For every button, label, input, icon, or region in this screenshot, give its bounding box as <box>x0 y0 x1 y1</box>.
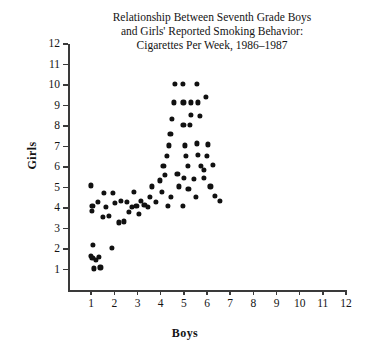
x-tick-label-7: 7 <box>218 298 242 310</box>
x-tick-label-1: 1 <box>79 298 103 310</box>
data-point <box>196 152 201 157</box>
y-tick-label-2: 2 <box>40 243 60 255</box>
x-tick-2 <box>114 290 115 295</box>
y-tick-label-text: 5 <box>42 182 60 194</box>
x-tick-label-8: 8 <box>241 298 265 310</box>
data-point <box>126 210 131 215</box>
data-point <box>188 112 193 117</box>
data-point <box>181 122 186 127</box>
x-tick-9 <box>276 290 277 295</box>
y-tick-3 <box>63 228 68 229</box>
data-point <box>89 183 94 188</box>
data-point <box>194 81 199 86</box>
y-tick-9 <box>63 105 68 106</box>
y-tick-label-text: 12 <box>42 38 60 50</box>
y-tick-1 <box>63 269 68 270</box>
data-point <box>172 100 177 105</box>
x-tick-11 <box>322 290 323 295</box>
data-point <box>180 203 185 208</box>
data-point <box>170 116 175 121</box>
y-tick-label-9: 9 <box>40 100 60 112</box>
chart-title-line-2: and Girls' Reported Smoking Behavior: <box>84 24 340 38</box>
data-point <box>203 95 208 100</box>
y-tick-label-text: 8 <box>42 120 60 132</box>
y-tick-label-7: 7 <box>40 141 60 153</box>
data-point <box>183 153 188 158</box>
data-point <box>111 190 116 195</box>
y-tick-10 <box>63 84 68 85</box>
x-tick-5 <box>183 290 184 295</box>
data-point <box>197 113 202 118</box>
data-point <box>157 178 162 183</box>
x-tick-label-12: 12 <box>334 298 358 310</box>
data-point <box>166 143 171 148</box>
scatter-plot-figure: Relationship Between Seventh Grade Boys … <box>0 0 370 361</box>
data-point <box>181 100 186 105</box>
x-tick-label-3: 3 <box>126 298 150 310</box>
data-point <box>107 214 112 219</box>
data-point <box>153 199 158 204</box>
x-tick-label-9: 9 <box>265 298 289 310</box>
data-point <box>202 176 207 181</box>
data-point <box>186 186 191 191</box>
x-tick-3 <box>137 290 138 295</box>
data-point <box>119 198 124 203</box>
data-point <box>98 265 103 270</box>
x-tick-6 <box>206 290 207 295</box>
data-point <box>145 204 150 209</box>
data-point <box>103 204 108 209</box>
data-point <box>193 194 198 199</box>
data-point <box>217 198 222 203</box>
x-tick-label-6: 6 <box>195 298 219 310</box>
data-point <box>168 132 173 137</box>
y-axis-title: Girls <box>25 126 40 186</box>
y-tick-label-text: 10 <box>42 79 60 91</box>
y-tick-label-10: 10 <box>40 79 60 91</box>
data-point <box>172 81 177 86</box>
data-point <box>180 81 185 86</box>
y-tick-label-3: 3 <box>40 223 60 235</box>
data-point <box>204 153 209 158</box>
y-tick-label-text: 2 <box>42 243 60 255</box>
y-tick-label-text: 9 <box>42 100 60 112</box>
data-point <box>90 242 95 247</box>
y-tick-label-8: 8 <box>40 120 60 132</box>
y-tick-label-text: 3 <box>42 223 60 235</box>
y-tick-6 <box>63 166 68 167</box>
data-point <box>206 142 211 147</box>
data-point <box>181 176 186 181</box>
data-point <box>163 173 168 178</box>
y-tick-11 <box>63 64 68 65</box>
x-tick-10 <box>299 290 300 295</box>
x-tick-8 <box>253 290 254 295</box>
y-tick-label-1: 1 <box>40 264 60 276</box>
x-tick-label-11: 11 <box>311 298 335 310</box>
data-point <box>90 203 95 208</box>
y-tick-label-11: 11 <box>40 59 60 71</box>
data-point <box>185 163 190 168</box>
data-point <box>208 184 213 189</box>
y-tick-8 <box>63 125 68 126</box>
y-tick-2 <box>63 248 68 249</box>
data-point <box>161 163 166 168</box>
data-point <box>165 203 170 208</box>
y-tick-7 <box>63 146 68 147</box>
data-point <box>112 200 117 205</box>
data-point <box>188 100 193 105</box>
y-tick-label-text: 7 <box>42 141 60 153</box>
data-point <box>97 254 102 259</box>
y-tick-12 <box>63 43 68 44</box>
plot-area: 123456789101112 123456789101112 <box>68 44 346 290</box>
data-point <box>213 193 218 198</box>
data-point <box>124 199 129 204</box>
x-tick-label-5: 5 <box>172 298 196 310</box>
chart-title-line-1: Relationship Between Seventh Grade Boys <box>84 10 340 24</box>
data-point <box>196 100 201 105</box>
data-point <box>182 143 187 148</box>
data-point <box>165 153 170 158</box>
x-tick-label-4: 4 <box>149 298 173 310</box>
data-point <box>210 162 215 167</box>
data-point <box>187 122 192 127</box>
data-point <box>148 194 153 199</box>
y-tick-label-5: 5 <box>40 182 60 194</box>
